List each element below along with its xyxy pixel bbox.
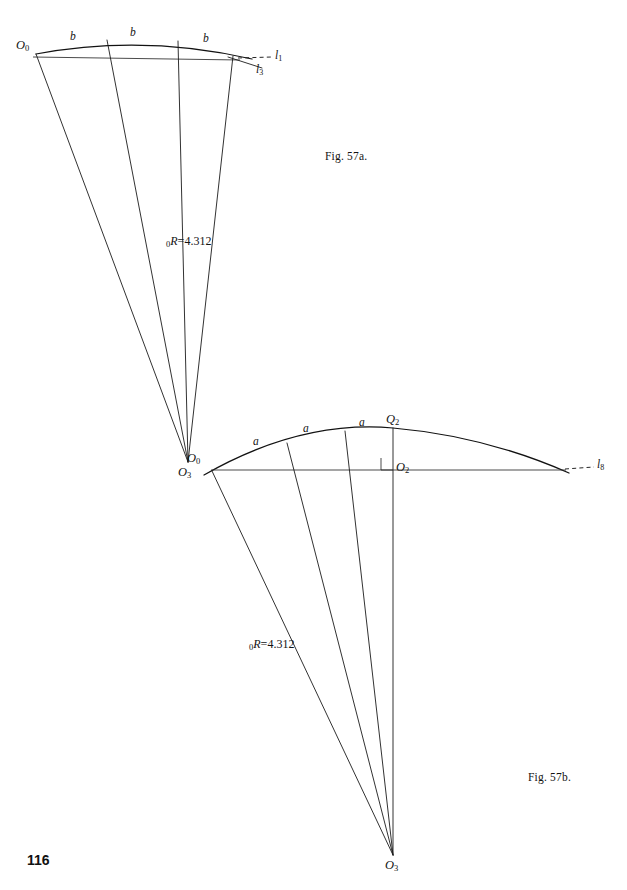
line-label-l8-57b: l8	[597, 459, 604, 472]
point-label-O0-57b: O0	[187, 452, 200, 465]
point-label-Q2-57b: Q2	[386, 413, 399, 426]
line-l8-dashed-57b	[565, 467, 594, 469]
right-angle-marker-57b	[381, 458, 393, 470]
chord-label-b-1: b	[70, 31, 76, 43]
radius-label-57b: 0R=4.312	[249, 638, 294, 651]
chord-label-a-3: a	[359, 417, 365, 429]
figure-caption-57b: Fig. 57b.	[528, 772, 571, 784]
radial-line-1-57a	[36, 54, 188, 462]
point-label-O0-57a: O0	[16, 39, 29, 52]
chord-baseline-57a	[33, 57, 240, 60]
line-label-l3-57a: l3	[256, 64, 263, 77]
radial-line-1-57b	[212, 471, 393, 855]
point-label-O3-57a: O3	[178, 466, 191, 479]
line-label-l1-57a: l1	[275, 50, 282, 63]
page-number: 116	[27, 853, 50, 867]
chord-label-b-2: b	[130, 27, 136, 39]
figure-canvas	[0, 0, 627, 890]
chord-label-a-1: a	[253, 436, 259, 448]
figure-57a-geometry	[33, 40, 272, 462]
figure-caption-57a: Fig. 57a.	[325, 151, 367, 163]
chord-label-a-2: a	[303, 423, 309, 435]
radius-label-57a: 0R=4.312	[166, 235, 211, 248]
point-label-O2-57b: O2	[396, 461, 409, 474]
radial-line-4-57a	[188, 56, 233, 462]
arc-upper-57a	[36, 45, 252, 59]
radial-line-2-57b	[287, 443, 393, 855]
radial-line-3-57a	[178, 41, 188, 462]
radial-line-2-57a	[107, 40, 188, 462]
chord-label-b-3: b	[203, 33, 209, 45]
point-label-O3-57b: O3	[385, 859, 398, 872]
radial-line-3-57b	[345, 431, 393, 855]
